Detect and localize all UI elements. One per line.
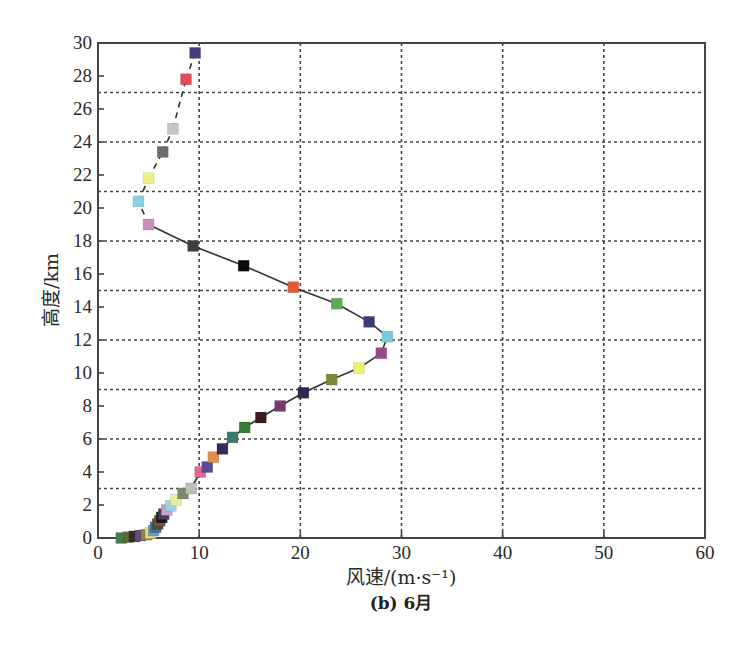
y-tick-label: 24 <box>73 131 93 152</box>
data-point-marker <box>364 316 375 327</box>
profile-segment <box>244 266 294 287</box>
y-tick-label: 26 <box>73 98 92 119</box>
profile-segment <box>173 79 186 129</box>
data-point-marker <box>354 363 365 374</box>
y-tick-label: 12 <box>73 329 92 350</box>
x-tick-label: 60 <box>696 542 715 563</box>
data-point-marker <box>227 432 238 443</box>
data-point-marker <box>298 387 309 398</box>
data-point-marker <box>326 374 337 385</box>
y-tick-label: 2 <box>83 494 93 515</box>
x-tick-label: 50 <box>594 542 613 563</box>
data-point-marker <box>202 462 213 473</box>
y-tick-label: 8 <box>83 395 93 416</box>
y-tick-label: 10 <box>73 362 92 383</box>
data-point-marker <box>143 173 154 184</box>
y-tick-label: 30 <box>73 32 92 53</box>
data-point-marker <box>190 47 201 58</box>
data-point-marker <box>382 331 393 342</box>
data-point-marker <box>238 260 249 271</box>
data-point-marker <box>188 240 199 251</box>
data-point-marker <box>288 282 299 293</box>
y-tick-label: 18 <box>73 230 92 251</box>
profile-segment <box>193 246 244 266</box>
data-point-marker <box>239 422 250 433</box>
data-point-marker <box>186 483 197 494</box>
data-point-marker <box>376 348 387 359</box>
wind-profile-chart: 0102030405060024681012141618202224262830… <box>0 0 752 651</box>
data-point-marker <box>181 74 192 85</box>
connecting-line <box>121 53 387 538</box>
gridlines <box>98 43 705 538</box>
data-point-marker <box>157 146 168 157</box>
y-tick-label: 0 <box>83 527 93 548</box>
x-tick-label: 0 <box>93 542 103 563</box>
y-tick-label: 4 <box>83 461 93 482</box>
y-tick-label: 28 <box>73 65 92 86</box>
data-point-marker <box>331 298 342 309</box>
x-tick-label: 30 <box>392 542 411 563</box>
profile-segment <box>149 225 194 246</box>
y-tick-label: 22 <box>73 164 92 185</box>
x-axis-label: 风速/(m·s⁻¹) <box>346 566 457 588</box>
data-point-marker <box>167 123 178 134</box>
axis-ticks: 0102030405060024681012141618202224262830 <box>73 32 715 563</box>
x-tick-label: 10 <box>190 542 209 563</box>
y-tick-label: 6 <box>83 428 93 449</box>
data-point-marker <box>255 412 266 423</box>
data-point-marker <box>143 219 154 230</box>
x-tick-label: 20 <box>291 542 310 563</box>
y-tick-label: 20 <box>73 197 92 218</box>
y-tick-label: 16 <box>73 263 92 284</box>
data-point-marker <box>217 443 228 454</box>
y-axis-label: 高度/km <box>40 253 62 327</box>
x-tick-label: 40 <box>493 542 512 563</box>
y-tick-label: 14 <box>73 296 93 317</box>
data-point-marker <box>133 196 144 207</box>
figure-caption: (b) 6月 <box>370 593 433 613</box>
data-points <box>116 47 393 543</box>
data-point-marker <box>275 401 286 412</box>
